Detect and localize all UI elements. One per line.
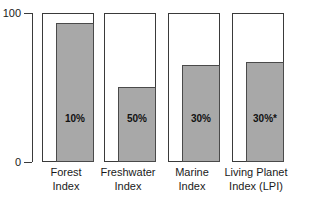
category-label-line2: Index (LPI) [216,180,296,194]
category-label-line2: Index [38,180,94,194]
bar-group-marine-index: 30% Marine Index [164,0,220,203]
bar-label-forest-index: 10% [57,113,93,124]
category-label-marine-index: Marine Index [164,166,220,193]
category-label-living-planet-index: Living Planet Index (LPI) [216,166,296,193]
category-label-forest-index: Forest Index [38,166,94,193]
y-axis-line [32,13,33,162]
y-axis-label-bottom: 0 [15,157,21,168]
plot-area: 10% Forest Index 50% Freshwater Index 30… [38,0,311,203]
category-label-line1: Living Planet [225,166,288,178]
category-label-line1: Freshwater [100,166,155,178]
bar-label-freshwater-index: 50% [119,113,155,124]
category-label-line2: Index [164,180,220,194]
category-label-line1: Marine [175,166,209,178]
y-axis-tick-bottom [24,162,32,163]
bar-value-marine-index: 30% [182,65,220,162]
category-label-line1: Forest [50,166,81,178]
bar-chart: 100 0 10% Forest Index 50% Freshwater In… [0,0,311,203]
y-axis-tick-top [24,13,32,14]
bar-value-freshwater-index: 50% [118,87,156,162]
bar-label-marine-index: 30% [183,113,219,124]
y-axis-label-top: 100 [3,8,21,19]
bar-value-forest-index: 10% [56,23,94,162]
bar-group-forest-index: 10% Forest Index [38,0,94,203]
bar-label-living-planet-index: 30%* [247,113,283,124]
category-label-freshwater-index: Freshwater Index [97,166,159,193]
bar-group-freshwater-index: 50% Freshwater Index [100,0,156,203]
bar-value-living-planet-index: 30%* [246,62,284,162]
category-label-line2: Index [97,180,159,194]
bar-group-living-planet-index: 30%* Living Planet Index (LPI) [228,0,284,203]
